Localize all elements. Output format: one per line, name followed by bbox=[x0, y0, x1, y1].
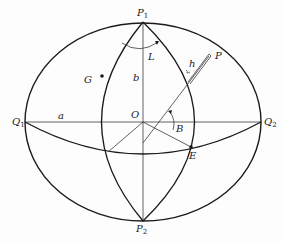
label-q1: Q1 bbox=[12, 117, 25, 129]
latitude-arc bbox=[170, 112, 174, 130]
label-p: P bbox=[215, 51, 222, 61]
label-a: a bbox=[58, 111, 64, 121]
label-p2: P2 bbox=[136, 224, 147, 236]
label-h: h bbox=[189, 59, 195, 69]
radius-line-e bbox=[143, 122, 191, 147]
label-b: b bbox=[133, 73, 139, 83]
prime-meridian bbox=[102, 22, 144, 221]
label-p1: P1 bbox=[137, 8, 148, 20]
label-e: E bbox=[189, 151, 196, 161]
diagram-graphic bbox=[0, 0, 283, 244]
label-o: O bbox=[131, 110, 139, 120]
longitude-arrowhead bbox=[155, 41, 159, 45]
height-brace bbox=[186, 70, 190, 73]
point-e bbox=[189, 145, 193, 149]
ellipsoid-diagram: P1 P2 Q1 Q2 O G E P a b L B h bbox=[0, 0, 283, 244]
label-q2: Q2 bbox=[264, 117, 277, 129]
radius-line-left bbox=[108, 122, 143, 152]
label-g: G bbox=[84, 75, 92, 85]
height-bar-cap bbox=[209, 54, 211, 56]
point-g bbox=[100, 74, 104, 78]
label-b-angle: B bbox=[176, 124, 183, 134]
label-l: L bbox=[148, 52, 155, 62]
